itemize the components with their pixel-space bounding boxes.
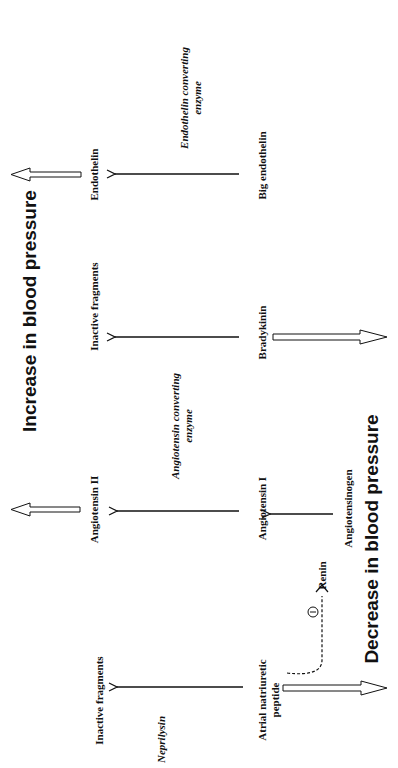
inhibition-dashed-arrow xyxy=(287,596,322,674)
anp-line-2: peptide xyxy=(269,640,282,760)
atrial-natriuretic-peptide-label: Atrial natriuretic peptide xyxy=(256,640,284,760)
angiotensin-i-label: Angiotensin I xyxy=(256,459,269,559)
enzyme-line-2: enzyme xyxy=(182,351,195,501)
bradykinin-label: Bradykinin xyxy=(256,293,269,373)
endothelin-enzyme-label: Endothelin converting enzyme xyxy=(178,28,206,168)
enzyme-line-2: enzyme xyxy=(191,28,204,168)
enzyme-line-1: Angiotensin converting xyxy=(169,351,182,501)
ace-enzyme-label: Angiotensin converting enzyme xyxy=(169,351,197,501)
enzyme-line-1: Endothelin converting xyxy=(178,28,191,168)
inactive-fragments-anp-label: Inactive fragments xyxy=(93,640,106,762)
decrease-arrow-bradykinin-icon xyxy=(273,330,387,344)
angiotensinogen-label: Angiotensinogen xyxy=(342,454,355,564)
anp-line-1: Atrial natriuretic xyxy=(256,640,269,760)
neprilysin-label: Neprilysin xyxy=(155,707,168,768)
renin-label: Renin xyxy=(316,556,329,596)
decrease-arrow-anp-icon xyxy=(283,681,387,695)
increase-heading: Increase in blood pressure xyxy=(19,181,41,441)
increase-arrow-angiotensin-icon xyxy=(11,503,80,516)
angiotensin-ii-label: Angiotensin II xyxy=(88,460,101,560)
increase-arrow-endothelin-icon xyxy=(11,168,81,181)
decrease-heading: Decrease in blood pressure xyxy=(361,409,383,669)
big-endothelin-label: Big endothelin xyxy=(256,111,269,221)
inactive-fragments-bradykinin-label: Inactive fragments xyxy=(88,251,101,363)
endothelin-label: Endothelin xyxy=(88,135,101,215)
